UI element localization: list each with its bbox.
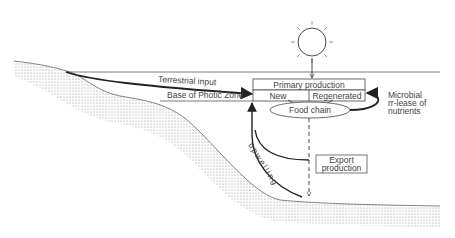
primary-production-label: Primary production <box>273 80 345 90</box>
new-production-label: New <box>269 91 287 101</box>
export-production-box: Export production <box>316 155 367 173</box>
microbial-label-3: nutrients <box>388 106 421 116</box>
food-chain-label: Food chain <box>289 105 331 115</box>
terrestrial-input-label: Terrestrial input <box>158 74 217 87</box>
seabed <box>14 61 440 228</box>
base-photic-zone-label: Base of Photic Zone <box>167 90 244 100</box>
primary-production-box: Primary production New Regenerated <box>253 79 365 101</box>
ocean-production-diagram: Terrestrial input Base of Photic Zone Pr… <box>0 0 455 238</box>
regenerated-production-label: Regenerated <box>312 91 361 101</box>
sun-icon <box>291 21 333 63</box>
export-label-2: production <box>322 163 362 173</box>
